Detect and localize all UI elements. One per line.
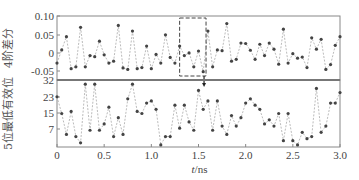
data-point: [268, 118, 271, 121]
data-point: [159, 61, 162, 64]
data-point: [107, 106, 110, 109]
y-axis-label: 4阶差分: [1, 28, 15, 68]
y-tick-label: 23: [43, 91, 55, 103]
x-axis: 00.51.01.52.02.53.0t/ns: [54, 144, 347, 175]
data-point: [55, 95, 58, 98]
data-point: [183, 104, 186, 107]
chart: 0.100.050-0.054阶差分32231575位最低有效位00.51.01…: [0, 0, 359, 180]
data-point: [140, 66, 143, 69]
data-point: [244, 42, 247, 45]
data-point: [98, 40, 101, 43]
data-point: [60, 112, 63, 115]
data-point: [70, 110, 73, 113]
data-point: [263, 54, 266, 57]
data-point: [154, 108, 157, 111]
data-point: [287, 112, 290, 115]
data-point: [338, 35, 341, 38]
data-point: [220, 49, 223, 52]
data-point: [258, 108, 261, 111]
data-point: [173, 61, 176, 64]
series-line: [57, 84, 340, 145]
data-point: [154, 53, 157, 56]
x-tick-label: 1.0: [144, 149, 158, 161]
data-point: [310, 135, 313, 138]
data-point: [239, 116, 242, 119]
data-point: [202, 70, 205, 73]
x-tick-label: 2.5: [286, 149, 300, 161]
data-point: [324, 68, 327, 71]
data-point: [93, 55, 96, 58]
series-line: [57, 24, 340, 72]
data-point: [301, 55, 304, 58]
data-point: [282, 139, 285, 142]
data-point: [131, 83, 134, 86]
data-point: [150, 67, 153, 70]
y-tick-label: 7: [49, 123, 55, 135]
data-point: [206, 29, 209, 32]
data-point: [112, 135, 115, 138]
plot-frame: [57, 16, 340, 80]
data-point: [334, 44, 337, 47]
arrowhead-icon: [202, 83, 206, 87]
data-point: [249, 49, 252, 52]
x-tick-label: 0.5: [97, 149, 111, 161]
data-point: [244, 101, 247, 104]
data-point: [230, 60, 233, 63]
data-point: [126, 97, 129, 100]
data-point: [315, 87, 318, 90]
data-point: [277, 63, 280, 66]
data-point: [324, 124, 327, 127]
data-point: [197, 89, 200, 92]
data-point: [320, 131, 323, 134]
data-point: [272, 48, 275, 51]
data-point: [291, 52, 294, 55]
data-point: [93, 83, 96, 86]
data-point: [225, 22, 228, 25]
data-point: [287, 61, 290, 64]
data-point: [107, 61, 110, 64]
data-point: [74, 65, 77, 68]
data-point: [65, 133, 68, 136]
data-point: [282, 28, 285, 31]
data-point: [121, 133, 124, 136]
data-point: [164, 33, 167, 36]
data-point: [320, 38, 323, 41]
data-point: [79, 141, 82, 144]
data-point: [230, 114, 233, 117]
data-point: [296, 143, 299, 146]
data-point: [150, 99, 153, 102]
data-point: [338, 91, 341, 94]
data-point: [277, 112, 280, 115]
data-point: [305, 137, 308, 140]
data-point: [296, 57, 299, 60]
data-point: [310, 36, 313, 39]
data-point: [126, 68, 129, 71]
y-tick-label: 32: [43, 74, 54, 86]
data-point: [70, 67, 73, 70]
data-point: [206, 99, 209, 102]
data-point: [254, 104, 257, 107]
y-tick-label: 0: [49, 47, 55, 59]
data-point: [164, 135, 167, 138]
data-point: [183, 54, 186, 57]
data-point: [103, 53, 106, 56]
data-point: [235, 58, 238, 61]
data-point: [79, 26, 82, 29]
data-point: [74, 135, 77, 138]
data-point: [140, 112, 143, 115]
data-point: [55, 61, 58, 64]
data-point: [258, 43, 261, 46]
data-point: [84, 65, 87, 68]
data-point: [84, 83, 87, 86]
data-point: [169, 56, 172, 59]
data-point: [178, 127, 181, 130]
data-point: [268, 42, 271, 45]
y-axis-label: 5位最低有效位: [1, 77, 15, 150]
data-point: [173, 104, 176, 107]
data-point: [211, 129, 214, 132]
data-point: [117, 116, 120, 119]
data-point: [225, 133, 228, 136]
data-point: [103, 122, 106, 125]
data-point: [202, 108, 205, 111]
data-point: [254, 58, 257, 61]
